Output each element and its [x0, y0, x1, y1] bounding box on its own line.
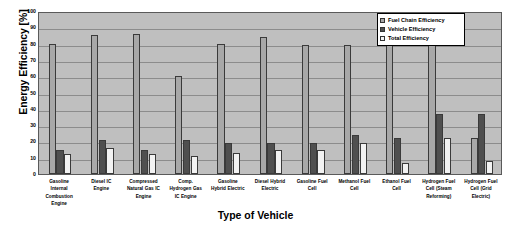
legend-swatch-icon — [380, 18, 385, 23]
bar — [99, 140, 106, 174]
bar — [486, 161, 493, 174]
bar — [260, 37, 267, 174]
chart-legend: Fuel Chain EfficiencyVehicle EfficiencyT… — [377, 13, 465, 46]
y-axis-tick-label: 50 — [6, 91, 36, 96]
bar — [133, 34, 140, 174]
legend-swatch-icon — [380, 36, 385, 41]
bar — [402, 163, 409, 174]
bar — [233, 153, 240, 174]
bar — [386, 45, 393, 174]
bar — [394, 138, 401, 174]
bar — [478, 114, 485, 174]
bar-group — [208, 13, 250, 174]
bar — [302, 45, 309, 174]
bar — [267, 143, 274, 174]
bar-group — [166, 13, 208, 174]
bar-group — [334, 13, 376, 174]
bar — [444, 138, 451, 174]
x-axis-tick-label: Diesel ICEngine — [80, 178, 122, 193]
legend-item: Vehicle Efficiency — [380, 25, 461, 34]
x-axis-tick-label: Methanol FuelCell — [333, 178, 375, 193]
bar — [106, 148, 113, 174]
x-axis-tick-label: Comp.Hydrogen GasIC Engine — [165, 178, 207, 200]
bar — [149, 154, 156, 174]
y-axis-tick-label: 30 — [6, 123, 36, 128]
y-axis-tick-label: 10 — [6, 156, 36, 161]
y-axis-tick-label: 40 — [6, 107, 36, 112]
bar — [428, 45, 435, 174]
legend-item: Fuel Chain Efficiency — [380, 16, 461, 25]
y-axis-tick-label: 60 — [6, 75, 36, 80]
bar-group — [250, 13, 292, 174]
legend-item-label: Vehicle Efficiency — [388, 27, 435, 33]
y-axis-tick-label: 20 — [6, 140, 36, 145]
energy-efficiency-bar-chart: Energy Efficiency [%] 010203040506070809… — [0, 0, 511, 229]
x-axis-tick-label: Ethanol FuelCell — [375, 178, 417, 193]
bar — [49, 44, 56, 174]
bar — [317, 150, 324, 174]
x-axis-tick-label: Hydrogen FuelCell (GridElectric) — [460, 178, 502, 200]
legend-item-label: Total Efficiency — [388, 36, 429, 42]
legend-item-label: Fuel Chain Efficiency — [388, 18, 445, 24]
legend-swatch-icon — [380, 27, 385, 32]
bar-group — [81, 13, 123, 174]
bar — [217, 44, 224, 174]
bar-group — [39, 13, 81, 174]
bar — [175, 76, 182, 174]
bar — [352, 135, 359, 174]
x-axis-tick-label: Diesel HybridElectric — [249, 178, 291, 193]
bar — [471, 138, 478, 174]
bar — [183, 140, 190, 174]
x-axis-tick-label: GasolineInternalCombustionEngine — [38, 178, 80, 207]
y-axis-tick-label: 0 — [6, 172, 36, 177]
legend-item: Total Efficiency — [380, 34, 461, 43]
bar — [436, 114, 443, 174]
y-axis-tick-labels: 0102030405060708090100 — [0, 12, 36, 175]
x-axis-tick-label: CompressedNatural Gas ICEngine — [122, 178, 164, 200]
bar — [91, 35, 98, 174]
y-axis-tick-label: 90 — [6, 26, 36, 31]
bar — [191, 156, 198, 174]
bar — [225, 143, 232, 174]
bar — [56, 150, 63, 174]
bar — [64, 154, 71, 174]
x-axis-title: Type of Vehicle — [0, 209, 511, 221]
y-axis-tick-label: 70 — [6, 58, 36, 63]
bar-group — [292, 13, 334, 174]
bar — [310, 143, 317, 174]
y-axis-tick-label: 80 — [6, 42, 36, 47]
bar — [344, 45, 351, 174]
x-axis-tick-label: Hydrogen FuelCell (SteamReforming) — [418, 178, 460, 200]
x-axis-tick-label: GasolineHybrid Electric — [207, 178, 249, 193]
bar-group — [461, 13, 502, 174]
bar — [141, 150, 148, 174]
bar — [275, 150, 282, 174]
y-axis-tick-label: 100 — [6, 9, 36, 14]
bar-group — [123, 13, 165, 174]
x-axis-tick-label: Gasoline FuelCell — [291, 178, 333, 193]
bar — [360, 143, 367, 174]
